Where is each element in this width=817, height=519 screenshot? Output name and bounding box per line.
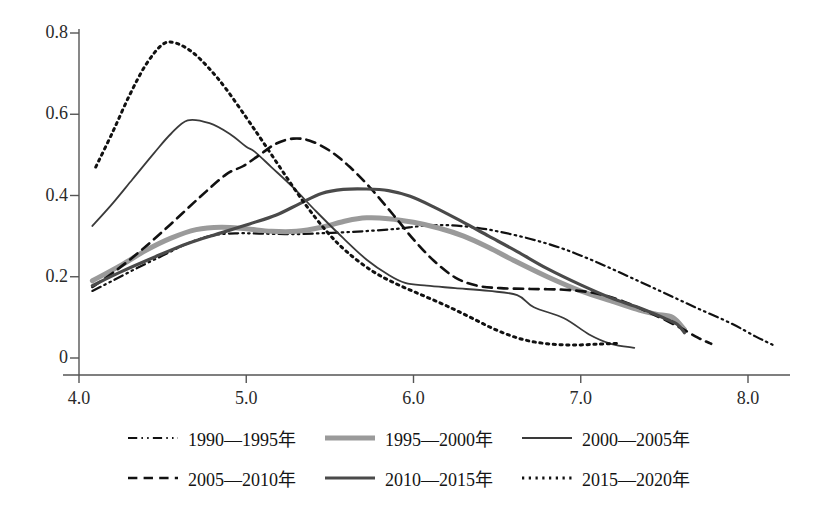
- series-line-1: [92, 218, 684, 330]
- legend-item-2010—2015年[interactable]: 2010—2015年: [324, 465, 493, 491]
- x-tick-label: 6.0: [384, 388, 444, 409]
- legend-key-icon: [521, 471, 573, 485]
- legend-key-icon: [127, 431, 179, 445]
- legend-label: 2015—2020年: [582, 465, 690, 491]
- legend-item-2000—2005年[interactable]: 2000—2005年: [521, 425, 690, 451]
- legend-label: 1995—2000年: [385, 425, 493, 451]
- series-lines: [92, 42, 773, 348]
- legend-key-icon: [127, 471, 179, 485]
- legend-item-2015—2020年[interactable]: 2015—2020年: [521, 465, 690, 491]
- legend-row: 2005—2010年2010—2015年2015—2020年: [0, 458, 817, 498]
- series-line-5: [96, 42, 618, 345]
- legend-item-1995—2000年[interactable]: 1995—2000年: [324, 425, 493, 451]
- x-tick-label: 7.0: [551, 388, 611, 409]
- x-tick-label: 4.0: [49, 388, 109, 409]
- y-tick-label: 0.2: [14, 266, 68, 287]
- series-line-3: [92, 138, 711, 343]
- chart-root: 00.20.40.60.8 4.05.06.07.08.0 1990—1995年…: [0, 0, 817, 519]
- legend-item-2005—2010年[interactable]: 2005—2010年: [127, 465, 296, 491]
- y-tick-label: 0.4: [14, 185, 68, 206]
- x-tick-label: 5.0: [216, 388, 276, 409]
- series-line-2: [92, 120, 634, 348]
- legend-label: 2010—2015年: [385, 465, 493, 491]
- y-tick-label: 0: [14, 347, 68, 368]
- legend-key-icon: [521, 431, 573, 445]
- x-tick-label: 8.0: [718, 388, 778, 409]
- legend-item-1990—1995年[interactable]: 1990—1995年: [127, 425, 296, 451]
- legend-key-icon: [324, 471, 376, 485]
- legend-label: 2005—2010年: [188, 465, 296, 491]
- chart-legend: 1990—1995年1995—2000年2000—2005年2005—2010年…: [0, 418, 817, 508]
- y-tick-label: 0.6: [14, 103, 68, 124]
- series-line-0: [92, 225, 773, 345]
- legend-label: 1990—1995年: [188, 425, 296, 451]
- legend-key-icon: [324, 431, 376, 445]
- y-tick-label: 0.8: [14, 22, 68, 43]
- legend-label: 2000—2005年: [582, 425, 690, 451]
- legend-row: 1990—1995年1995—2000年2000—2005年: [0, 418, 817, 458]
